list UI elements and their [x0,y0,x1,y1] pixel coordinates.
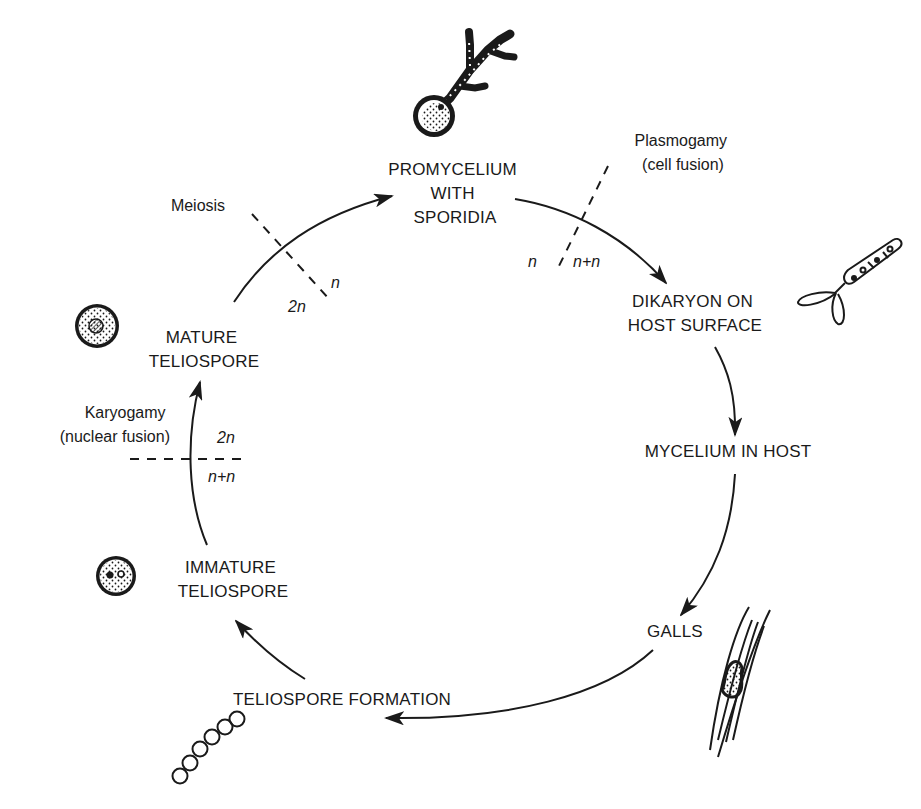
stage-galls-label: GALLS [647,622,703,641]
event-plasmogamy-label: Plasmogamy (cell fusion) [635,132,732,173]
arrow-mycelium-to-galls [681,474,735,615]
stage-mature-label: MATURE TELIOSPORE [149,328,260,371]
meiosis-divider [252,214,330,300]
stage-dikaryon-label: DIKARYON ON HOST SURFACE [628,292,762,335]
teliospore-chain-icon [173,712,245,784]
karyogamy-ploidy-before: n+n [208,468,235,485]
promycelium-sporidia-icon [413,32,514,137]
karyogamy-ploidy-after: 2n [216,429,235,446]
event-meiosis-label: Meiosis [171,197,225,214]
arrow-promycelium-to-dikaryon [515,199,666,283]
meiosis-ploidy-after: n [331,274,340,291]
stage-immature-label: IMMATURE TELIOSPORE [178,558,289,601]
arrow-mature-to-promycelium [234,196,392,302]
dikaryon-hypha-icon [798,239,901,324]
arrow-immature-to-mature [190,382,207,545]
arrow-formation-to-immature [236,621,305,679]
event-karyogamy-label: Karyogamy (nuclear fusion) [60,404,170,445]
gall-on-stem-icon [710,607,770,757]
stage-promycelium-label: PROMYCELIUM WITH SPORIDIA [388,160,522,227]
mature-teliospore-icon [75,304,119,348]
stage-mycelium-label: MYCELIUM IN HOST [645,442,812,461]
smut-life-cycle-diagram: PROMYCELIUM WITH SPORIDIA DIKARYON ON HO… [0,0,921,809]
plasmogamy-ploidy-before: n [528,253,537,270]
plasmogamy-ploidy-after: n+n [573,253,600,270]
stage-formation-label: TELIOSPORE FORMATION [233,690,451,709]
immature-teliospore-icon [96,556,136,596]
arrow-dikaryon-to-mycelium [715,347,735,435]
meiosis-ploidy-before: 2n [287,298,306,315]
